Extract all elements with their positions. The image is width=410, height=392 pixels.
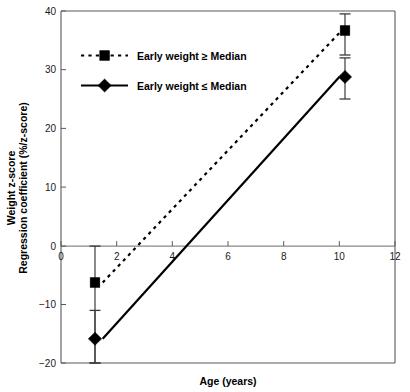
regression-coefficient-line-chart: 40 30 20 10 0 −10 −20 0 2 4 6 8 10 12 <box>0 0 410 392</box>
x-tick-label-0: 0 <box>58 251 64 262</box>
y-tick-label-neg20: −20 <box>39 358 56 369</box>
y-axis-title-line1: Weight z-score <box>5 151 17 226</box>
marker-diamond-age-10 <box>338 70 351 83</box>
legend-label-ge-median: Early weight ≥ Median <box>137 50 247 62</box>
chart-figure: 40 30 20 10 0 −10 −20 0 2 4 6 8 10 12 <box>0 0 410 392</box>
marker-square-age-10 <box>340 26 350 36</box>
marker-diamond-age-1.5 <box>88 332 101 345</box>
marker-square-age-1.5 <box>90 278 100 288</box>
x-tick-label-10: 10 <box>334 251 346 262</box>
x-axis-ticks <box>61 241 395 246</box>
y-axis-tick-labels: 40 30 20 10 0 −10 −20 <box>39 6 56 369</box>
y-tick-label-0: 0 <box>50 241 56 252</box>
legend-item-ge-median[interactable]: Early weight ≥ Median <box>81 50 247 62</box>
y-tick-label-40: 40 <box>45 6 57 17</box>
legend-label-le-median: Early weight ≤ Median <box>137 80 247 92</box>
y-tick-label-10: 10 <box>45 182 57 193</box>
series-early-weight-le-median <box>88 58 351 363</box>
y-tick-label-neg10: −10 <box>39 299 56 310</box>
series-ge-median-line <box>103 33 340 283</box>
y-tick-label-30: 30 <box>45 64 57 75</box>
x-tick-label-6: 6 <box>225 251 231 262</box>
x-axis-tick-labels: 0 2 4 6 8 10 12 <box>58 251 401 262</box>
x-axis-title: Age (years) <box>199 375 256 387</box>
chart-legend: Early weight ≥ Median Early weight ≤ Med… <box>81 50 247 93</box>
legend-diamond-marker <box>98 79 111 92</box>
y-tick-label-20: 20 <box>45 123 57 134</box>
y-axis-ticks <box>61 11 66 363</box>
x-tick-label-12: 12 <box>389 251 401 262</box>
x-tick-label-2: 2 <box>114 251 120 262</box>
legend-square-marker <box>100 51 110 61</box>
legend-item-le-median[interactable]: Early weight ≤ Median <box>81 79 247 92</box>
y-axis-title-line2: Regression coefficient (%/z-score) <box>17 102 29 274</box>
x-tick-label-8: 8 <box>281 251 287 262</box>
series-le-median-line <box>103 77 340 339</box>
